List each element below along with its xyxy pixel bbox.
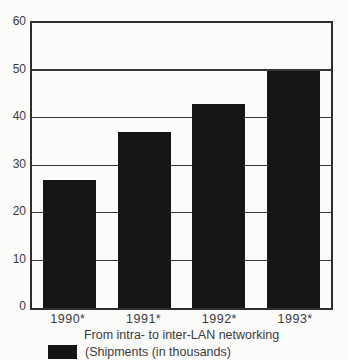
y-tick-label: 50 (0, 62, 26, 76)
bars (32, 23, 331, 308)
x-tick-label: 1991* (114, 312, 174, 326)
bar (267, 71, 320, 309)
x-tick-label: 1993* (265, 312, 325, 326)
y-tick-label: 10 (0, 252, 26, 266)
x-tick-label: 1992* (189, 312, 249, 326)
bar (43, 180, 96, 308)
x-tick-label: 1990* (38, 312, 98, 326)
y-tick-label: 20 (0, 204, 26, 218)
legend-label: (Shipments (in thousands) (85, 345, 231, 359)
bar (192, 104, 245, 308)
y-tick-label: 0 (0, 299, 26, 313)
chart-caption: From intra- to inter-LAN networking (30, 328, 333, 342)
x-axis-tick-labels: 1990*1991*1992*1993* (30, 312, 333, 326)
y-tick-label: 60 (0, 14, 26, 28)
y-tick-label: 40 (0, 109, 26, 123)
plot-area (30, 21, 333, 310)
legend-swatch-icon (48, 345, 77, 359)
bar (118, 132, 171, 308)
bar-chart-figure: 0102030405060 1990*1991*1992*1993* From … (0, 0, 348, 360)
y-tick-label: 30 (0, 157, 26, 171)
legend: (Shipments (in thousands) (48, 345, 231, 359)
